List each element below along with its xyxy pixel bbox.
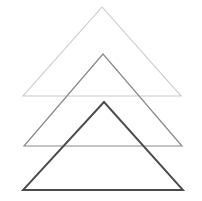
figure-canvas [0, 0, 202, 201]
nested-triangles-figure [0, 0, 202, 201]
figure-background [0, 0, 202, 201]
